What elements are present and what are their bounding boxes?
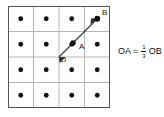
vector-line [59,19,97,57]
lattice-dot [69,67,74,72]
lattice-grid [8,6,110,108]
lattice-dot [95,67,100,72]
point-B-dot [94,16,100,22]
fraction-numerator: 1 [141,44,146,51]
lattice-dot [95,93,100,98]
point-label-O: O [60,56,66,64]
point-label-A: A [79,43,84,51]
lattice-dot [18,67,23,72]
fraction-denominator: 3 [141,53,146,60]
lattice-dot [44,93,49,98]
lattice-dot [69,93,74,98]
lattice-dot [18,42,23,47]
point-A-dot [70,40,75,45]
point-label-B: B [102,9,107,17]
lattice-dot [18,16,23,21]
equation-rhs: OB [149,46,162,57]
lattice-dot [69,16,74,21]
equation-operator: = [133,46,138,57]
lattice-dot [44,42,49,47]
equation-lhs: OA [118,46,131,57]
equation-OA-equals-one-third-OB: OA = 1 3 OB [118,44,164,59]
lattice-dot [44,67,49,72]
vector-diagram-figure: O A B OA = 1 3 OB [0,0,164,117]
grid-svg [8,6,110,108]
equation-fraction-one-third: 1 3 [141,44,146,59]
lattice-dot [44,16,49,21]
lattice-dot [95,42,100,47]
lattice-dot [18,93,23,98]
